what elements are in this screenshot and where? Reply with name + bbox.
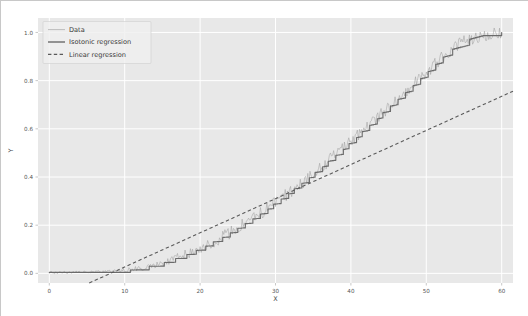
legend-label: Linear regression bbox=[69, 51, 126, 59]
y-tick-label: 0.6 bbox=[24, 126, 33, 132]
y-tick-label: 1.0 bbox=[24, 30, 33, 36]
x-tick-label: 10 bbox=[121, 288, 129, 294]
legend-label: Isotonic regression bbox=[69, 38, 131, 46]
y-tick-label: 0.2 bbox=[24, 222, 33, 228]
x-tick-label: 60 bbox=[498, 288, 506, 294]
x-tick-label: 30 bbox=[272, 288, 280, 294]
x-tick-label: 40 bbox=[347, 288, 355, 294]
figure-container: 0102030405060 0.00.20.40.60.81.0 X Y Dat… bbox=[0, 0, 528, 316]
x-tick-label: 50 bbox=[423, 288, 431, 294]
x-tick-label: 0 bbox=[48, 288, 52, 294]
legend-label: Data bbox=[69, 26, 85, 34]
y-axis-title: Y bbox=[7, 148, 15, 153]
chart-legend[interactable]: DataIsotonic regressionLinear regression bbox=[43, 22, 151, 64]
chart-canvas: 0102030405060 0.00.20.40.60.81.0 X Y Dat… bbox=[1, 1, 528, 316]
y-tick-label: 0.0 bbox=[24, 270, 33, 276]
x-tick-label: 20 bbox=[197, 288, 205, 294]
y-tick-label: 0.8 bbox=[24, 78, 33, 84]
x-axis-title: X bbox=[273, 295, 278, 303]
y-tick-label: 0.4 bbox=[24, 174, 33, 180]
